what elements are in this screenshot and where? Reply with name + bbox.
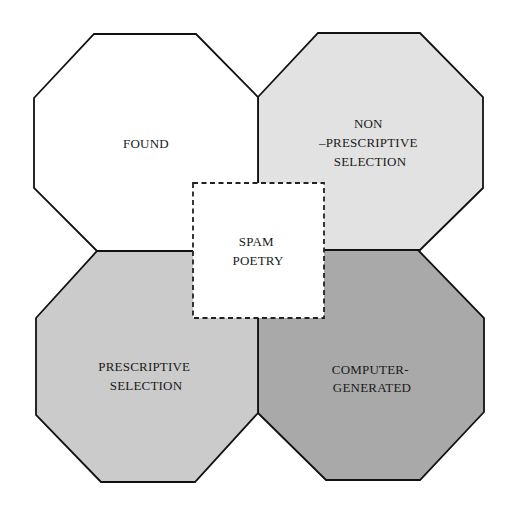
center-dashed-box (193, 183, 324, 318)
label-found: FOUND (123, 136, 169, 151)
spam-poetry-diagram: COMPUTER- GENERATED PRESCRIPTIVE SELECTI… (0, 0, 511, 512)
center-spam-poetry: SPAM POETRY (193, 183, 324, 318)
